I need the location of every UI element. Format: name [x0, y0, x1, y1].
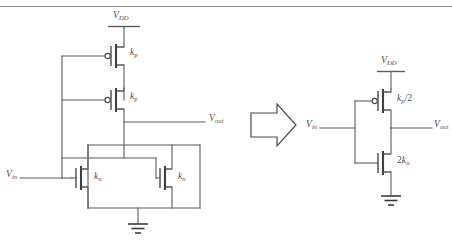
left-vout-label: Vout	[209, 114, 224, 124]
circuit-figure: VDD kp kp Vout Vin kn kn VDD kp/2 2kn Vi…	[0, 0, 452, 250]
right-ground-symbol	[381, 196, 401, 205]
pmos-top-label: kp	[130, 48, 138, 58]
nmos-left-symbol	[72, 145, 88, 208]
pmos-bottom-inversion-bubble	[105, 97, 110, 102]
left-ground-symbol	[128, 224, 148, 233]
right-pmos-label: kp/2	[397, 94, 412, 104]
left-vdd-label: VDD	[113, 11, 129, 21]
pmos-top-symbol	[62, 44, 124, 100]
transform-arrow-group	[251, 104, 296, 146]
left-vin-label: Vin	[6, 170, 17, 180]
pmos-bottom-label: kp	[130, 92, 138, 102]
right-pmos-symbol	[355, 89, 391, 128]
left-circuit-group	[20, 27, 205, 234]
circuit-schematic-canvas	[0, 0, 452, 250]
right-circuit-group	[320, 72, 432, 206]
transform-arrow-icon	[251, 104, 296, 146]
nmos-right-symbol	[156, 145, 172, 208]
right-pmos-inversion-bubble	[372, 98, 377, 103]
right-nmos-label: 2kn	[397, 156, 410, 166]
right-vin-label: Vin	[306, 120, 317, 130]
nmos-right-label: kn	[178, 172, 186, 182]
nmos-left-label: kn	[94, 172, 102, 182]
pmos-bottom-symbol	[62, 88, 124, 158]
pmos-top-inversion-bubble	[105, 53, 110, 58]
right-vdd-label: VDD	[381, 56, 397, 66]
right-nmos-symbol	[355, 128, 391, 196]
right-vout-label: Vout	[434, 120, 449, 130]
